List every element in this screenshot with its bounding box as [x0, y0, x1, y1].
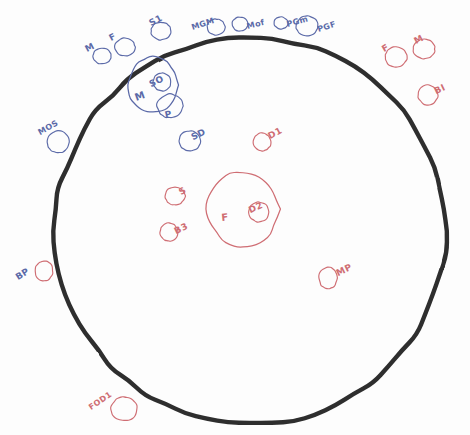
node-circle-m-14[interactable] — [413, 39, 435, 59]
node-circle-fod1-21[interactable] — [111, 397, 137, 421]
node-circle-m-0[interactable] — [93, 48, 111, 64]
node-circle-f-13[interactable] — [385, 47, 407, 67]
node-circle-pgf-6[interactable] — [296, 16, 318, 36]
node-circle-d2-23[interactable] — [249, 202, 269, 222]
node-circle-sd-8[interactable] — [179, 131, 201, 151]
node-circle-bi-15[interactable] — [418, 85, 438, 105]
node-circle-so-10[interactable] — [153, 73, 171, 91]
node-circle-pgm-5[interactable] — [274, 17, 288, 29]
node-circle-mos-7[interactable] — [47, 131, 69, 153]
node-circle-bp-16[interactable] — [35, 261, 53, 281]
node-circle-d1-17[interactable] — [253, 133, 271, 151]
diagram-svg — [0, 0, 470, 435]
node-shapes-layer — [35, 16, 438, 421]
node-circle-mgm-3[interactable] — [207, 19, 225, 35]
node-circle-s-18[interactable] — [165, 187, 185, 205]
node-circle-mof-4[interactable] — [232, 17, 248, 31]
node-circle-f-22[interactable] — [206, 172, 281, 247]
node-circle-b3-19[interactable] — [160, 223, 178, 241]
outer-boundary-circle — [53, 38, 447, 423]
node-circle-s1-2[interactable] — [151, 22, 171, 40]
node-circle-f-1[interactable] — [115, 38, 136, 56]
node-circle-mp-20[interactable] — [319, 267, 338, 289]
diagram-canvas: MFS1MGMMofPGmPGFMOSSDMSOPBPFMBID1SB3MPFO… — [0, 0, 470, 435]
